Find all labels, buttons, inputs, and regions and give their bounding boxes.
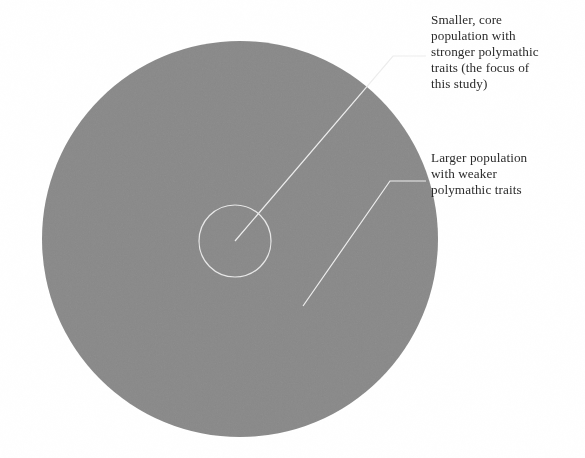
- outer-population-circle: [40, 39, 440, 439]
- outer-circle-grain: [40, 39, 440, 439]
- callout-outer-population: Larger population with weaker polymathic…: [431, 150, 577, 198]
- figure-container: Smaller, core population with stronger p…: [0, 0, 585, 458]
- callout-core-population: Smaller, core population with stronger p…: [431, 12, 577, 92]
